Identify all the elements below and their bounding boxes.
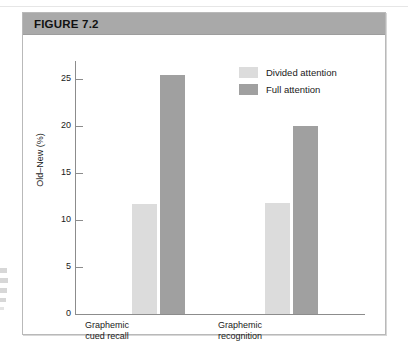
legend-item-full-attention: Full attention (239, 84, 337, 95)
x-category-label-2: Graphemic recognition (180, 320, 300, 342)
legend-swatch-full-attention (239, 84, 258, 95)
figure-header: FIGURE 7.2 (23, 13, 385, 35)
page-top-rule (0, 6, 408, 7)
x-category-label-2-line2: recognition (180, 331, 300, 342)
legend-swatch-divided-attention (239, 67, 258, 78)
chart-plot-area: Old–New (%) 25 20 15 10 5 0 (23, 35, 385, 336)
bar-full-graphemic-recognition (293, 126, 318, 314)
x-category-label-1: Graphemic cued recall (47, 320, 167, 342)
bar-full-graphemic-cued-recall (160, 75, 185, 314)
figure-panel: FIGURE 7.2 Old–New (%) 25 20 15 10 5 0 (22, 12, 386, 335)
y-tick-label-0: 0 (43, 308, 71, 318)
y-tick-label-25: 25 (43, 73, 71, 83)
x-category-label-2-line1: Graphemic (180, 320, 300, 331)
bar-divided-graphemic-cued-recall (132, 204, 157, 314)
x-axis-line (75, 314, 365, 315)
legend-item-divided-attention: Divided attention (239, 67, 337, 78)
legend-label-full-attention: Full attention (266, 84, 320, 95)
y-tick-label-20: 20 (43, 120, 71, 130)
scan-artifacts (0, 0, 14, 350)
x-category-label-1-line1: Graphemic (47, 320, 167, 331)
y-tick-label-5: 5 (43, 261, 71, 271)
chart-legend: Divided attention Full attention (239, 67, 337, 101)
legend-label-divided-attention: Divided attention (266, 67, 337, 78)
bar-divided-graphemic-recognition (265, 203, 290, 315)
y-tick-label-15: 15 (43, 167, 71, 177)
y-tick-label-10: 10 (43, 214, 71, 224)
x-category-label-1-line2: cued recall (47, 331, 167, 342)
figure-title: FIGURE 7.2 (23, 18, 99, 30)
